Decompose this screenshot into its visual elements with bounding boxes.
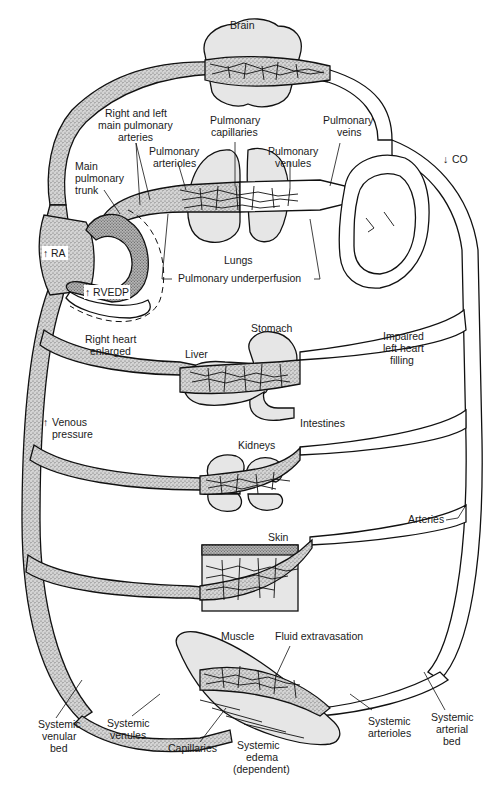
left-heart xyxy=(339,155,429,288)
label-impaired-1: Impaired xyxy=(383,330,424,342)
label-sys-venular-bed-3: bed xyxy=(50,742,68,754)
label-venous-1: Venous xyxy=(52,416,87,428)
label-sys-venular-bed-2: venular xyxy=(42,730,77,742)
label-right-heart-1: Right heart xyxy=(85,333,136,345)
label-muscle: Muscle xyxy=(221,630,254,642)
right-kidney-lower xyxy=(248,494,282,510)
label-rvedp: RVEDP xyxy=(93,286,129,298)
label-pulm-arterioles-2: arterioles xyxy=(153,157,196,169)
artery-to-muscle xyxy=(320,672,448,716)
label-pulm-veins-2: veins xyxy=(337,126,362,138)
venous-arrow: ↑ xyxy=(43,416,48,428)
co-arrow: ↓ xyxy=(443,153,448,165)
label-sys-edema-3: (dependent) xyxy=(233,763,290,775)
label-venous-2: pressure xyxy=(52,428,93,440)
renal-bed xyxy=(200,448,300,511)
circulation-diagram: Brain Right and left main pulmonary arte… xyxy=(0,0,498,787)
label-stomach: Stomach xyxy=(251,322,293,334)
leader-sys-venules xyxy=(132,694,160,716)
label-ra: RA xyxy=(51,247,66,259)
label-pulm-veins-1: Pulmonary xyxy=(323,114,374,126)
splanchnic-bed xyxy=(180,332,300,421)
label-sys-arterial-bed-2: arterial xyxy=(436,723,468,735)
label-sys-arterial-bed-3: bed xyxy=(443,735,461,747)
leader-fluid-extravasation xyxy=(276,646,290,676)
label-rl-pulm-arteries-2: main pulmonary xyxy=(98,119,173,131)
figure-canvas: Brain Right and left main pulmonary arte… xyxy=(0,0,498,787)
rvedp-arrow: ↑ xyxy=(85,286,90,298)
label-sys-venules-1: Systemic xyxy=(107,717,150,729)
label-main-pulm-trunk-1: Main xyxy=(75,160,98,172)
label-pulm-capillaries-1: Pulmonary xyxy=(210,114,261,126)
label-co: CO xyxy=(452,153,468,165)
label-lungs: Lungs xyxy=(224,254,253,266)
label-main-pulm-trunk-3: trunk xyxy=(75,184,99,196)
label-brain: Brain xyxy=(230,19,255,31)
label-sys-arterioles-2: arterioles xyxy=(368,727,411,739)
label-fluid-extravasation: Fluid extravasation xyxy=(275,630,363,642)
label-skin: Skin xyxy=(268,531,289,543)
label-sys-venular-bed-1: Systemic xyxy=(38,718,81,730)
ra-arrow: ↑ xyxy=(43,247,48,259)
label-pulm-capillaries-2: capillaries xyxy=(211,126,258,138)
label-rl-pulm-arteries-1: Right and left xyxy=(105,107,167,119)
cutaneous-bed xyxy=(200,540,312,611)
label-sys-venules-2: venules xyxy=(110,729,146,741)
leader-pulm-veins xyxy=(330,143,340,186)
label-intestines: Intestines xyxy=(300,417,345,429)
artery-to-skin xyxy=(310,505,466,545)
label-pulm-venules-2: venules xyxy=(275,157,311,169)
label-sys-edema-1: Systemic xyxy=(237,739,280,751)
left-kidney-lower xyxy=(208,494,242,511)
label-capillaries: Capillaries xyxy=(168,742,217,754)
muscle-bed xyxy=(176,632,340,745)
label-kidneys: Kidneys xyxy=(238,439,275,451)
label-arteries: Arteries xyxy=(408,513,444,525)
label-right-heart-2: enlarged xyxy=(90,345,131,357)
label-pulm-venules-1: Pulmonary xyxy=(268,145,319,157)
label-sys-arterial-bed-1: Systemic xyxy=(431,711,474,723)
skin-epidermis xyxy=(202,545,298,555)
label-liver: Liver xyxy=(185,348,208,360)
label-rl-pulm-arteries-3: arteries xyxy=(118,131,153,143)
leader-underperfusion xyxy=(162,214,320,279)
brain-bed xyxy=(204,19,330,107)
label-main-pulm-trunk-2: pulmonary xyxy=(75,172,125,184)
label-pulm-underperfusion: Pulmonary underperfusion xyxy=(178,272,301,284)
label-impaired-3: filling xyxy=(390,354,414,366)
label-sys-arterioles-1: Systemic xyxy=(368,715,411,727)
label-sys-edema-2: edema xyxy=(246,751,278,763)
label-pulm-arterioles-1: Pulmonary xyxy=(149,145,200,157)
label-impaired-2: left heart xyxy=(383,342,424,354)
intestines-organ xyxy=(250,392,294,420)
